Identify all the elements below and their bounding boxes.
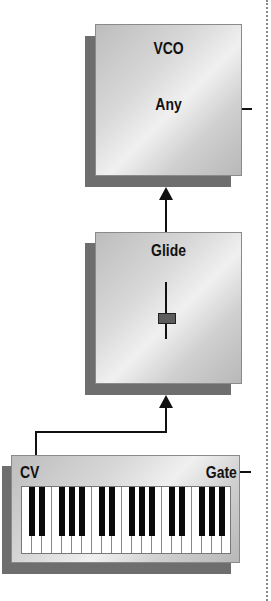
arrow-up-icon: [159, 187, 173, 200]
glide-slider-track[interactable]: [165, 282, 167, 339]
vco-subtitle: Any: [109, 95, 228, 115]
gate-label: Gate: [206, 463, 237, 483]
black-key[interactable]: [179, 487, 185, 536]
black-key[interactable]: [99, 487, 105, 536]
dotted-divider: [266, 0, 268, 601]
black-key[interactable]: [109, 487, 115, 536]
gate-output-line: [240, 471, 251, 473]
black-key[interactable]: [169, 487, 175, 536]
black-key[interactable]: [139, 487, 145, 536]
vco-module[interactable]: VCO Any: [95, 24, 242, 176]
cv-to-glide-line: [165, 405, 167, 433]
black-key[interactable]: [29, 487, 35, 536]
black-key[interactable]: [69, 487, 75, 536]
vco-title: VCO: [109, 39, 228, 59]
vco-output-line: [242, 108, 252, 110]
arrow-up-icon: [159, 395, 173, 408]
black-key[interactable]: [149, 487, 155, 536]
cv-label: CV: [20, 463, 39, 483]
black-key[interactable]: [129, 487, 135, 536]
black-key[interactable]: [59, 487, 65, 536]
glide-module[interactable]: Glide: [95, 232, 242, 384]
black-key[interactable]: [199, 487, 205, 536]
glide-to-vco-line: [165, 198, 167, 232]
cv-horizontal-line: [35, 431, 167, 433]
black-key[interactable]: [39, 487, 45, 536]
glide-slider-knob[interactable]: [158, 313, 176, 324]
black-key[interactable]: [219, 487, 225, 536]
glide-title: Glide: [109, 241, 228, 261]
cv-vertical-line: [35, 431, 37, 455]
black-key[interactable]: [209, 487, 215, 536]
black-key[interactable]: [79, 487, 85, 536]
piano-keys[interactable]: [21, 486, 231, 554]
